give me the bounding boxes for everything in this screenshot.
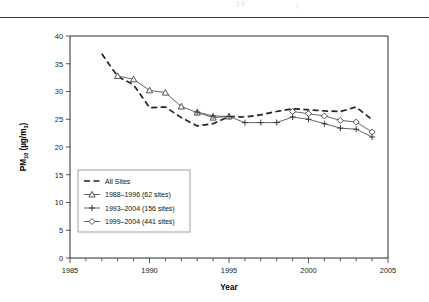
y-tick-label: 10 [55,198,63,207]
legend-label: All Sites [105,178,131,185]
x-tick-labels: 19851990199520002005 [62,266,396,275]
y-axis-title: PM10 (µg/m3) [19,123,29,172]
y-tick-label: 15 [55,171,63,180]
legend-label: 1999–2004 (441 sites) [105,218,175,226]
x-axis-title: Year [220,283,238,292]
chart-page: 10 | 0510152025303540 198519901995200020… [0,0,429,302]
y-tick-label: 0 [59,254,63,263]
x-tick-label: 1990 [141,266,157,275]
diamond-marker [337,117,343,123]
diamond-marker [306,111,312,117]
x-tick-label: 2000 [300,266,316,275]
x-tick-label: 1995 [221,266,237,275]
legend-label: 1988–1996 (62 sites) [105,191,171,199]
chart-legend: All Sites1988–1996 (62 sites)1993–2004 (… [78,170,190,232]
x-tick-label: 2005 [380,266,396,275]
series-line [293,111,373,132]
plus-marker [321,121,327,127]
legend-label: 1993–2004 (156 sites) [105,205,175,213]
plus-marker [337,125,343,131]
y-axis-title-text: PM10 (µg/m3) [19,123,29,172]
series-3 [194,109,375,140]
y-tick-label: 30 [55,87,63,96]
plus-marker [258,120,264,126]
chart-figure: 0510152025303540 19851990199520002005 Al… [0,18,429,302]
series-line [102,54,372,126]
triangle-marker [146,87,152,93]
series-1 [102,54,372,126]
diamond-marker [369,129,375,135]
y-tick-label: 25 [55,115,63,124]
pm10-trend-line-chart: 0510152025303540 19851990199520002005 Al… [0,18,429,302]
diamond-marker [353,119,359,125]
data-series-group [102,54,375,140]
y-tick-label: 40 [55,32,63,41]
y-tick-label: 5 [59,226,63,235]
header-ghost-text-right: | [296,1,298,8]
plus-marker [274,120,280,126]
header-ghost-text-left: 10 [236,0,246,7]
y-tick-labels: 0510152025303540 [55,32,63,263]
y-tick-label: 35 [55,60,63,69]
series-line [197,112,372,137]
x-tick-label: 1985 [62,266,78,275]
diamond-marker [321,113,327,119]
y-tick-label: 20 [55,143,63,152]
plus-marker [242,120,248,126]
plus-marker [353,126,359,132]
